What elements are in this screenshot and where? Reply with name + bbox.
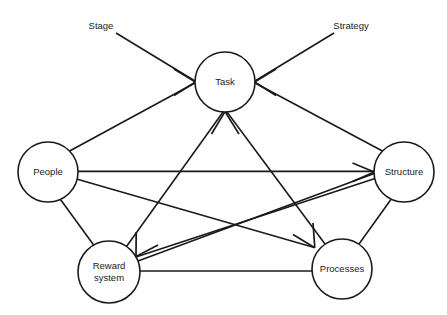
arrowhead-task-left bbox=[174, 69, 195, 96]
edge-reward-to-task bbox=[127, 112, 224, 247]
node-reward-system[interactable]: Reward system bbox=[78, 241, 140, 303]
diagram-svg: Task People Structure Reward system Proc… bbox=[0, 0, 447, 315]
diagram-canvas: Task People Structure Reward system Proc… bbox=[0, 0, 447, 315]
edge-line-structure-task bbox=[255, 83, 383, 151]
edge-line-structure-processes bbox=[359, 198, 392, 244]
external-label-layer: Stage Strategy bbox=[89, 20, 369, 31]
arrow-barb-left bbox=[293, 235, 315, 248]
node-processes-label: Processes bbox=[320, 263, 365, 274]
arrow-barb-lower bbox=[174, 82, 195, 96]
external-label-strategy: Strategy bbox=[333, 20, 369, 31]
node-structure-label: Structure bbox=[385, 166, 424, 177]
node-structure[interactable]: Structure bbox=[374, 142, 434, 202]
edge-structure-to-task bbox=[255, 83, 383, 151]
arrow-barb-lower bbox=[255, 82, 276, 96]
arrow-barb-left bbox=[212, 112, 226, 134]
node-people-label: People bbox=[33, 166, 63, 177]
node-reward-system-label-line1: Reward bbox=[93, 260, 126, 271]
edge-line-people-reward bbox=[61, 200, 95, 246]
edge-line-processes-task bbox=[227, 112, 325, 244]
arrow-barb-upper bbox=[174, 69, 195, 82]
node-task[interactable]: Task bbox=[195, 52, 255, 112]
arrowhead-structure-left bbox=[353, 163, 375, 182]
node-people[interactable]: People bbox=[18, 142, 78, 202]
arrow-barb-upper bbox=[255, 69, 276, 82]
node-layer: Task People Structure Reward system Proc… bbox=[18, 52, 434, 303]
arrow-barb-right bbox=[225, 112, 239, 134]
external-label-stage: Stage bbox=[89, 20, 114, 31]
node-task-label: Task bbox=[215, 76, 235, 87]
node-processes[interactable]: Processes bbox=[312, 239, 372, 299]
node-reward-system-label-line2: system bbox=[94, 272, 124, 283]
edge-people-to-reward bbox=[61, 200, 95, 246]
edge-structure-to-processes bbox=[359, 198, 392, 244]
edge-processes-to-task bbox=[227, 112, 325, 244]
arrowhead-task-right bbox=[255, 69, 276, 96]
edge-line-reward-task bbox=[127, 112, 224, 247]
arrow-barb-upper bbox=[313, 223, 315, 248]
